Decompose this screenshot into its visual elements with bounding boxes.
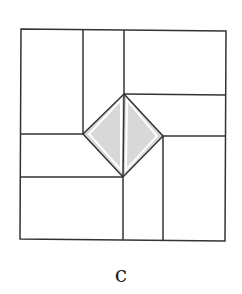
division-lines xyxy=(20,29,226,240)
pinwheel-diagram xyxy=(0,0,242,294)
figure-caption: c xyxy=(0,262,242,287)
